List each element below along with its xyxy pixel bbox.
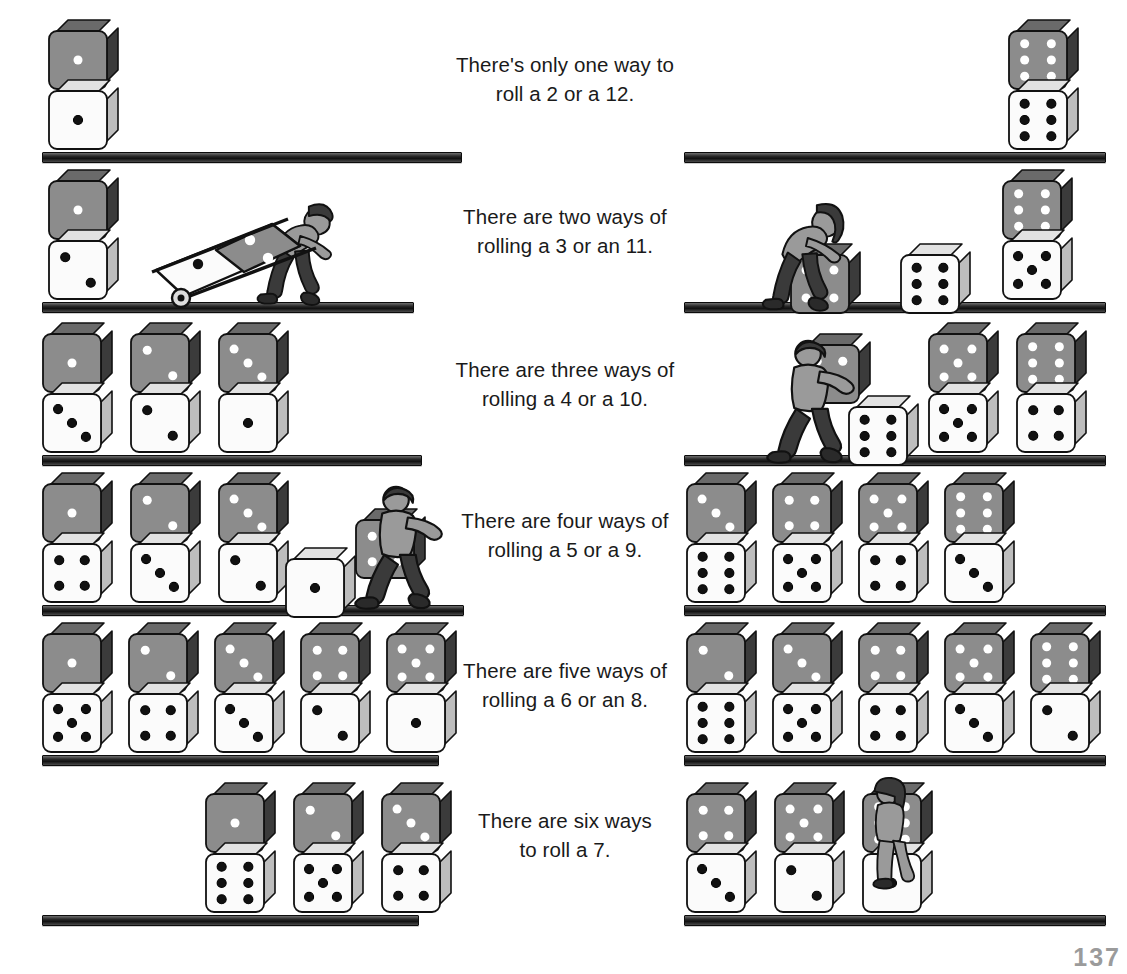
caption-line: There are three ways of <box>420 355 710 384</box>
white-die <box>1008 79 1078 150</box>
row-caption: There's only one way toroll a 2 or a 12. <box>420 50 710 108</box>
die-stack <box>944 472 1014 602</box>
row-caption: There are four ways ofrolling a 5 or a 9… <box>420 506 710 564</box>
white-die <box>128 682 198 753</box>
white-die <box>42 532 112 603</box>
caption-line: rolling a 4 or a 10. <box>420 384 710 413</box>
caption-line: There are six ways <box>420 806 710 835</box>
white-die <box>205 842 275 913</box>
caption-line: There are five ways of <box>420 656 710 685</box>
hand-truck <box>150 218 325 313</box>
person-figure <box>348 484 448 612</box>
white-die <box>42 682 112 753</box>
die-stack <box>42 472 112 602</box>
white-die <box>686 682 756 753</box>
illustration-page: There's only one way toroll a 2 or a 12.… <box>0 0 1127 974</box>
shelf-right <box>684 302 1106 313</box>
die-stack <box>858 622 928 752</box>
white-die <box>772 532 842 603</box>
die-stack <box>928 322 998 452</box>
white-die <box>1030 682 1100 753</box>
caption-line: to roll a 7. <box>420 835 710 864</box>
white-die <box>772 682 842 753</box>
shelf-left <box>42 915 419 926</box>
shelf-right <box>684 755 1106 766</box>
white-die <box>944 532 1014 603</box>
white-die <box>293 842 363 913</box>
die-stack <box>774 782 844 912</box>
row-caption: There are two ways ofrolling a 3 or an 1… <box>420 202 710 260</box>
die-stack <box>42 322 112 452</box>
die-stack <box>1030 622 1100 752</box>
die-stack <box>381 782 451 912</box>
white-die <box>218 532 288 603</box>
white-die <box>900 243 971 314</box>
shelf-right <box>684 915 1106 926</box>
row-caption: There are five ways ofrolling a 6 or an … <box>420 656 710 714</box>
row-caption: There are three ways ofrolling a 4 or a … <box>420 355 710 413</box>
white-die <box>944 682 1014 753</box>
shelf-left <box>42 152 462 163</box>
person-figure <box>845 778 931 888</box>
die-stack <box>130 472 200 602</box>
person-figure <box>760 338 860 466</box>
die-stack <box>293 782 363 912</box>
die-stack <box>48 19 118 149</box>
die-stack <box>386 622 456 752</box>
shelf-right <box>684 605 1106 616</box>
caption-line: There's only one way to <box>420 50 710 79</box>
white-die <box>386 682 456 753</box>
white-die <box>858 532 928 603</box>
white-die <box>130 532 200 603</box>
white-die <box>858 682 928 753</box>
die-stack <box>772 622 842 752</box>
caption-line: There are two ways of <box>420 202 710 231</box>
white-die <box>686 532 756 603</box>
shelf-left <box>42 755 439 766</box>
die-stack <box>130 322 200 452</box>
caption-line: rolling a 5 or a 9. <box>420 535 710 564</box>
die-stack <box>214 622 284 752</box>
caption-line: There are four ways of <box>420 506 710 535</box>
white-die <box>1002 229 1072 300</box>
white-die <box>1016 382 1086 453</box>
shelf-left <box>42 455 422 466</box>
die-stack <box>686 622 756 752</box>
die-stack <box>218 472 288 602</box>
die-stack <box>205 782 275 912</box>
die-stack <box>686 782 756 912</box>
die-stack <box>218 322 288 452</box>
die-stack <box>944 622 1014 752</box>
die-stack <box>128 622 198 752</box>
white-die <box>928 382 998 453</box>
white-die <box>381 842 451 913</box>
die-stack <box>772 472 842 602</box>
white-die <box>48 229 118 300</box>
caption-line: rolling a 6 or an 8. <box>420 685 710 714</box>
page-number: 137 <box>1073 943 1121 972</box>
white-die <box>774 842 844 913</box>
person-figure <box>760 198 852 316</box>
row-caption: There are six waysto roll a 7. <box>420 806 710 864</box>
white-die <box>686 842 756 913</box>
die-stack <box>1008 19 1078 149</box>
white-die <box>130 382 200 453</box>
caption-line: rolling a 3 or an 11. <box>420 231 710 260</box>
caption-line: roll a 2 or a 12. <box>420 79 710 108</box>
die-stack <box>42 622 112 752</box>
white-die <box>214 682 284 753</box>
white-die <box>300 682 370 753</box>
die-stack <box>858 472 928 602</box>
die-stack <box>48 169 118 299</box>
die-stack <box>300 622 370 752</box>
shelf-right <box>684 152 1106 163</box>
die-stack <box>1002 169 1072 299</box>
white-die <box>42 382 112 453</box>
die-stack <box>686 472 756 602</box>
white-die <box>218 382 288 453</box>
white-die <box>48 79 118 150</box>
die-stack <box>1016 322 1086 452</box>
white-die <box>285 547 356 618</box>
